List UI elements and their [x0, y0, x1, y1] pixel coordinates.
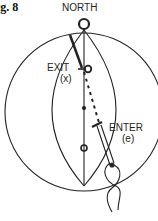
exit-symbol: (x) [60, 73, 72, 84]
axis-mark [83, 107, 86, 110]
sphere-diagram [0, 0, 158, 221]
north-label: NORTH [62, 2, 97, 13]
stitch-path [84, 72, 100, 126]
north-pole-ring-icon [79, 19, 89, 29]
sphere-outline [5, 33, 158, 191]
needle [70, 35, 82, 68]
enter-symbol: (e) [122, 133, 134, 144]
meridian-left [52, 30, 84, 186]
thread-loop [105, 163, 120, 210]
enter-label: ENTER [109, 122, 143, 133]
exit-label: EXIT [47, 62, 69, 73]
